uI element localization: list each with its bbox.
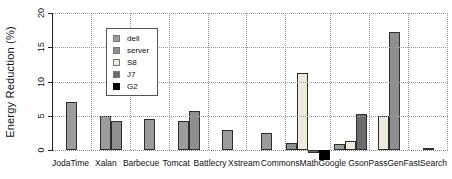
y-tick-label-15: 15 <box>36 42 46 52</box>
bar <box>423 148 434 150</box>
bar <box>144 119 155 150</box>
bar <box>222 130 233 150</box>
x-axis-category-labels: JodaTimeXalanBarbecueTomcatBattlecryXstr… <box>52 158 447 168</box>
y-tick-0 <box>48 150 53 151</box>
legend-item: dell <box>113 32 149 44</box>
y-tick-label-0: 0 <box>36 147 46 152</box>
y-tick-label-20: 20 <box>36 8 46 18</box>
legend-marker-icon <box>113 71 120 78</box>
bar <box>345 141 356 150</box>
y-axis-title-box: Energy Reduction (%) <box>0 13 20 150</box>
y-tick-label-10: 10 <box>36 76 46 86</box>
bar <box>261 133 272 150</box>
legend-item: J7 <box>113 68 149 80</box>
legend-label: J7 <box>127 70 135 79</box>
y-axis-title: Energy Reduction (%) <box>4 26 16 138</box>
bar <box>356 114 367 150</box>
y-tick-10 <box>48 82 53 83</box>
gridline-5 <box>53 116 448 117</box>
gridline-20 <box>53 13 448 14</box>
legend-label: server <box>127 46 149 55</box>
bar <box>111 121 122 150</box>
bar <box>334 144 345 150</box>
x-category-label: Xalan <box>89 158 123 168</box>
legend-marker-icon <box>113 59 120 66</box>
bar <box>308 150 319 153</box>
x-category-label: Xstream <box>227 158 261 168</box>
bar <box>189 111 200 150</box>
y-tick-15 <box>48 47 53 48</box>
bar <box>378 116 389 150</box>
y-axis-tick-labels: 05101520 <box>34 13 48 150</box>
x-category-label: Barbecue <box>123 158 159 168</box>
bar <box>100 116 111 150</box>
x-category-label: CommonsMath <box>261 158 319 168</box>
y-tick-20 <box>48 13 53 14</box>
bar <box>178 121 189 150</box>
legend-marker-icon <box>113 47 120 54</box>
legend: dellserverS8J7G2 <box>106 28 158 96</box>
legend-label: S8 <box>127 58 137 67</box>
plot-area: dellserverS8J7G2 <box>52 13 448 151</box>
legend-label: dell <box>127 34 139 43</box>
legend-marker-icon <box>113 35 120 42</box>
x-category-label: Tomcat <box>159 158 193 168</box>
x-category-label: PassGen <box>369 158 404 168</box>
y-tick-label-5: 5 <box>36 113 46 118</box>
legend-marker-icon <box>113 83 120 90</box>
legend-label: G2 <box>127 82 138 91</box>
bar <box>286 143 297 150</box>
energy-reduction-bar-chart: Energy Reduction (%) 05101520 dellserver… <box>0 0 452 179</box>
y-tick-5 <box>48 116 53 117</box>
x-category-label: Battlecry <box>193 158 227 168</box>
legend-item: server <box>113 44 149 56</box>
legend-item: G2 <box>113 80 149 92</box>
x-category-label: FastSearch <box>404 158 447 168</box>
x-category-label: Google Gson <box>318 158 368 168</box>
bar <box>389 32 400 151</box>
x-category-label: JodaTime <box>52 158 89 168</box>
legend-item: S8 <box>113 56 149 68</box>
bar <box>66 102 77 150</box>
bar <box>297 73 308 150</box>
